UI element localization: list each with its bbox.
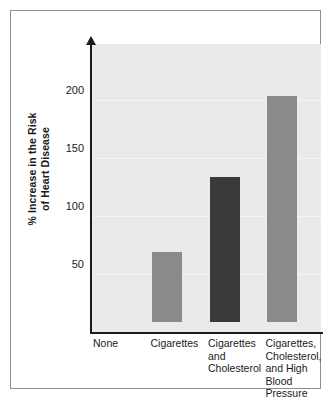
y-axis-title-line1: % Increase in the Risk bbox=[26, 112, 38, 225]
bar bbox=[210, 177, 240, 322]
bar bbox=[152, 252, 182, 322]
x-category-label-line: Cholesterol, bbox=[266, 350, 322, 362]
x-category-label-line: Blood bbox=[266, 375, 293, 387]
y-axis-title-line2: of Heart Disease bbox=[39, 127, 51, 211]
x-category-label-line: Cholesterol bbox=[208, 362, 261, 374]
x-axis-category-labels: NoneCigarettesCigarettesandCholesterolCi… bbox=[91, 337, 331, 400]
x-category-label-line: Cigarettes bbox=[151, 337, 199, 349]
x-category-label-line: Cigarettes, bbox=[266, 337, 317, 349]
x-category-label: Cigarettes,Cholesterol,and HighBloodPres… bbox=[266, 337, 330, 400]
y-axis-line bbox=[90, 44, 92, 333]
bar-chart-figure: 50100150200 % Increase in the Risk of He… bbox=[0, 0, 333, 400]
figure-frame: 50100150200 % Increase in the Risk of He… bbox=[10, 10, 321, 389]
x-category-label-line: and bbox=[208, 350, 226, 362]
y-tick-label: 50 bbox=[18, 259, 90, 270]
x-axis-line bbox=[90, 332, 323, 334]
x-category-label: CigarettesandCholesterol bbox=[208, 337, 272, 375]
x-category-label-line: None bbox=[93, 337, 118, 349]
bar bbox=[267, 96, 297, 322]
x-category-label: None bbox=[93, 337, 157, 350]
x-category-label-line: Cigarettes bbox=[208, 337, 256, 349]
y-axis-title: % Increase in the Risk of Heart Disease bbox=[26, 89, 52, 249]
x-category-label-line: and High bbox=[266, 362, 308, 374]
x-category-label-line: Pressure bbox=[266, 387, 308, 399]
x-category-label: Cigarettes bbox=[151, 337, 215, 350]
